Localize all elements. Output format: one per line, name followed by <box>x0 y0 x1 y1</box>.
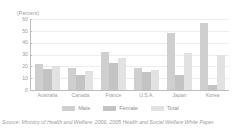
bar-total-france <box>118 58 127 90</box>
bar-total-korea <box>217 55 226 91</box>
bar-group-bars <box>31 19 64 90</box>
y-tick-label: 40 <box>16 39 30 45</box>
source-caption: Source: Ministry of Health and Welfare, … <box>2 119 241 125</box>
legend-label: Total <box>167 105 179 111</box>
bar-male-canada <box>68 68 77 90</box>
legend-swatch-male <box>62 106 75 111</box>
bar-group <box>196 19 229 90</box>
legend-swatch-female <box>103 106 116 111</box>
bar-female-canada <box>76 75 85 90</box>
bar-female-australia <box>43 69 52 90</box>
y-tick-label: 10 <box>16 75 30 81</box>
legend-label: Male <box>78 105 90 111</box>
x-axis-labels: AustraliaCanadaFranceU.S.A.JapanKorea <box>31 92 229 98</box>
x-axis-line <box>30 90 229 91</box>
bar-total-canada <box>85 71 94 90</box>
bar-male-japan <box>167 33 176 90</box>
bar-female-japan <box>175 75 184 90</box>
bar-group <box>31 19 64 90</box>
y-tick-label: 60 <box>16 16 30 22</box>
x-tick-label: Canada <box>64 92 97 98</box>
x-tick-label: Australia <box>31 92 64 98</box>
bar-group <box>163 19 196 90</box>
legend-item-female[interactable]: Female <box>103 105 138 111</box>
x-tick-label: U.S.A. <box>130 92 163 98</box>
bar-male-france <box>101 52 110 90</box>
bar-male-usa <box>134 68 143 90</box>
x-tick-label: Japan <box>163 92 196 98</box>
bar-total-australia <box>52 66 61 90</box>
x-tick-label: Korea <box>196 92 229 98</box>
bar-group-bars <box>97 19 130 90</box>
y-tick-label: 20 <box>16 63 30 69</box>
bar-group-bars <box>130 19 163 90</box>
bar-chart-figure: (Percent) 6050403020100 AustraliaCanadaF… <box>0 0 241 130</box>
bar-group <box>130 19 163 90</box>
bar-total-japan <box>184 53 193 90</box>
x-tick-label: France <box>97 92 130 98</box>
y-tick-label: 50 <box>16 28 30 34</box>
y-tick-label: 30 <box>16 51 30 57</box>
bar-group <box>97 19 130 90</box>
bar-male-australia <box>35 64 44 90</box>
bar-group-bars <box>163 19 196 90</box>
bar-group-bars <box>196 19 229 90</box>
bar-female-usa <box>142 72 151 90</box>
bar-male-korea <box>200 23 209 90</box>
y-tick-label: 0 <box>16 87 30 93</box>
y-tick-mark <box>30 90 32 91</box>
bar-groups <box>31 19 229 90</box>
legend-label: Female <box>119 105 138 111</box>
bar-group <box>64 19 97 90</box>
legend-item-total[interactable]: Total <box>151 105 179 111</box>
legend-swatch-total <box>151 106 164 111</box>
legend-item-male[interactable]: Male <box>62 105 90 111</box>
plot-area: 6050403020100 <box>16 19 229 91</box>
bar-group-bars <box>64 19 97 90</box>
chart-legend: MaleFemaleTotal <box>0 105 241 111</box>
bar-female-france <box>109 63 118 90</box>
bar-female-korea <box>208 85 217 90</box>
bar-total-usa <box>151 70 160 90</box>
